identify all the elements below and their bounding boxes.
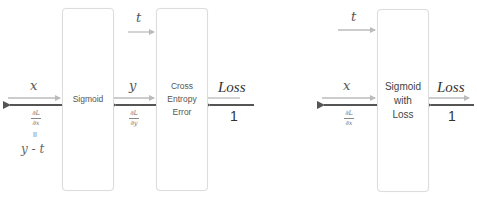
- loss-forward-label: Loss: [218, 79, 246, 96]
- dL-dx-gradient-label: ∂L ∂x: [31, 110, 41, 127]
- sigmoid-with-loss-label-line-2: with: [385, 94, 421, 108]
- x-forward-label-right: x: [343, 78, 350, 93]
- dL-dx-gradient-label-right: ∂L ∂x: [344, 110, 354, 127]
- cross-entropy-label-line-3: Error: [167, 106, 196, 119]
- sigmoid-node: Sigmoid: [62, 8, 114, 191]
- t-forward-label-right: t: [351, 9, 356, 24]
- sigmoid-with-loss-label-line-3: Loss: [385, 108, 421, 122]
- loss-backward-value-right: 1: [448, 108, 456, 124]
- t-forward-label: t: [136, 10, 141, 25]
- dL-dy-gradient-label: ∂L ∂y: [129, 110, 139, 127]
- y-forward-label: y: [129, 78, 136, 93]
- cross-entropy-label-line-1: Cross: [167, 80, 196, 93]
- loss-forward-label-right: Loss: [437, 79, 465, 96]
- sigmoid-with-loss-node: Sigmoid with Loss: [377, 9, 429, 192]
- sigmoid-label: Sigmoid: [73, 93, 104, 106]
- cross-entropy-error-node: Cross Entropy Error: [156, 8, 208, 191]
- x-forward-label: x: [30, 78, 37, 93]
- y-minus-t-label: y - t: [21, 142, 44, 156]
- equals-sign-vertical: II: [33, 131, 37, 138]
- sigmoid-with-loss-label-line-1: Sigmoid: [385, 80, 421, 94]
- loss-backward-value: 1: [230, 108, 238, 124]
- cross-entropy-label-line-2: Entropy: [167, 93, 196, 106]
